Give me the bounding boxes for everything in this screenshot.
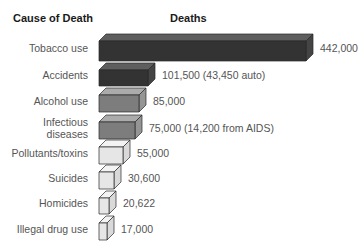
bar [99,216,114,240]
value-label: 85,000 [153,95,185,107]
bar [99,191,116,214]
category-label: Tobacco use [29,42,88,54]
category-label: Illegal drug use [17,223,88,235]
bar [99,115,142,139]
value-label: 442,000 [320,42,358,54]
bar [99,88,146,112]
category-label: Accidents [42,69,88,81]
category-label: Homicides [39,197,88,209]
bar [99,165,121,189]
category-label: Pollutants/toxins [12,147,88,159]
bar [99,140,130,164]
bar [99,34,313,61]
value-label: 17,000 [121,223,153,235]
value-label: 101,500 (43,450 auto) [162,69,265,81]
value-label: 20,622 [123,197,155,209]
category-label: Alcohol use [34,95,88,107]
category-label: Infectiousdiseases [43,116,88,140]
category-label: Suicides [48,172,88,184]
value-label: 75,000 (14,200 from AIDS) [149,122,274,134]
value-label: 55,000 [137,147,169,159]
bar [99,63,155,86]
value-label: 30,600 [128,172,160,184]
